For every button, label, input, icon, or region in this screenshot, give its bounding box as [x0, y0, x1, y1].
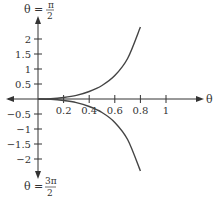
x-tick-label: 0.6 [107, 105, 123, 116]
bottom-axis-label: θ = 3π 2 [24, 176, 57, 198]
y-tick-label: 1.5 [15, 49, 31, 60]
x-arrow-right-icon [196, 96, 204, 102]
bottom-denominator: 2 [47, 188, 53, 198]
top-theta-label: θ = [24, 3, 43, 16]
x-tick-label: 0.8 [132, 105, 148, 116]
bottom-numerator: 3π [45, 176, 57, 186]
x-arrow-left-icon [6, 96, 14, 102]
y-tick-label: −0.5 [7, 109, 31, 120]
axis-arrows [6, 16, 204, 179]
y-tick-label: 1 [25, 64, 31, 75]
curve-upper-branch [38, 27, 140, 99]
y-tick-label: −1.5 [7, 139, 31, 150]
y-tick-label: 2 [25, 34, 31, 45]
axes [8, 20, 200, 175]
bottom-theta-label: θ = [24, 180, 43, 193]
right-axis-label: θ = 0 [206, 93, 214, 106]
top-denominator: 2 [47, 11, 53, 21]
top-axis-label: θ = π 2 [24, 0, 54, 21]
y-tick-label: −2 [16, 154, 31, 165]
top-numerator: π [48, 0, 54, 10]
y-tick-label: 0.5 [15, 79, 31, 90]
y-arrow-up-icon [35, 16, 41, 24]
x-ticks: 0.20.40.60.81 [56, 95, 170, 116]
y-arrow-down-icon [35, 171, 41, 179]
x-tick-label: 0.2 [56, 105, 72, 116]
x-tick-label: 1 [163, 105, 169, 116]
polar-curve-chart: 0.20.40.60.81 21.510.5−0.5−1−1.5−2 θ = π… [0, 0, 214, 198]
y-tick-label: −1 [16, 124, 31, 135]
